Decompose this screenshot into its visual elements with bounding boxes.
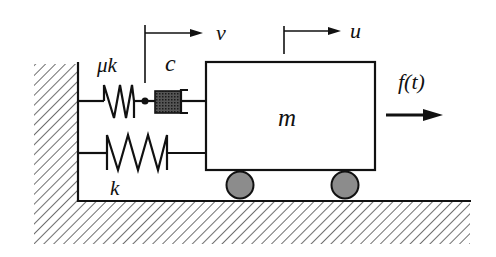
wheel-right (332, 172, 359, 199)
label-v: v (216, 20, 226, 45)
label-f-t: f(t) (398, 69, 425, 94)
u-displacement-arrow (284, 26, 341, 54)
label-k: k (110, 176, 120, 200)
wheel-left (227, 172, 254, 199)
label-c: c (165, 50, 176, 76)
mass-spring-damper-diagram: μk c k m f(t) v u (0, 0, 496, 257)
maxwell-spring (78, 85, 145, 118)
damper (145, 90, 206, 113)
label-u: u (350, 18, 361, 43)
parallel-spring (78, 135, 206, 170)
label-mu-k: μk (96, 53, 118, 77)
force-arrow (386, 109, 443, 121)
label-m: m (278, 104, 296, 131)
